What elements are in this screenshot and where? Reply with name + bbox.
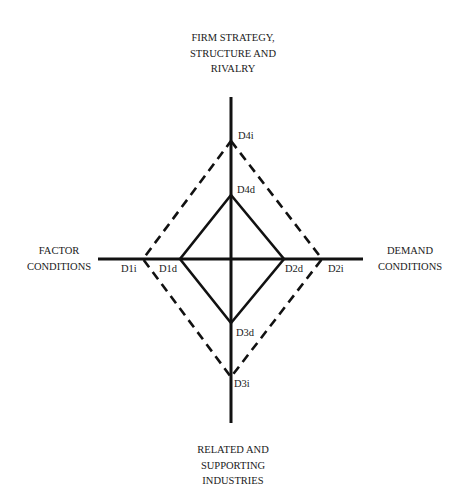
point-label-d2i: D2i (328, 263, 344, 275)
point-label-d1d: D1d (159, 263, 177, 275)
diamond-diagram (0, 0, 454, 503)
point-label-d4d: D4d (237, 184, 255, 196)
point-label-d2d: D2d (285, 263, 303, 275)
point-label-d3i: D3i (234, 378, 250, 390)
point-label-d3d: D3d (236, 327, 254, 339)
point-label-d4i: D4i (238, 130, 254, 142)
point-label-d1i: D1i (121, 263, 137, 275)
